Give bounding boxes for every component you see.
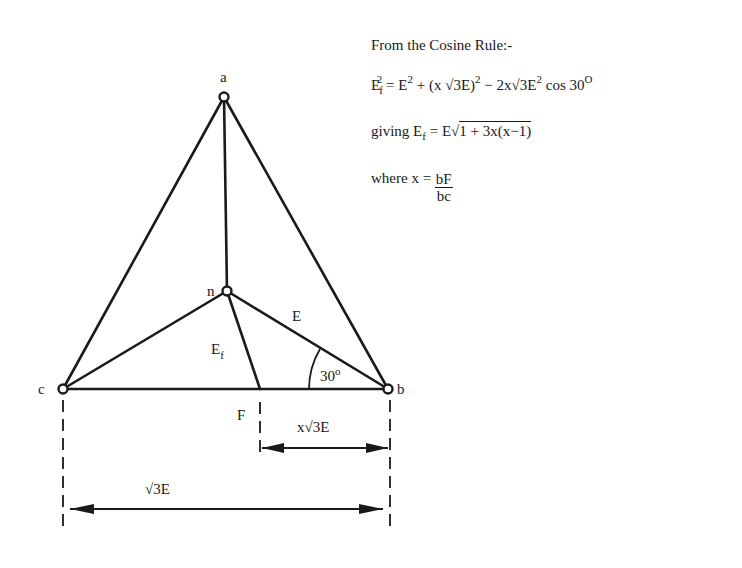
dimension-short xyxy=(262,443,388,453)
label-angle: 30o xyxy=(320,365,341,384)
label-n: n xyxy=(207,283,215,299)
node-n xyxy=(223,287,232,296)
label-dim-short: x√3E xyxy=(297,419,329,435)
angle-arc xyxy=(309,349,320,389)
edge-a-n xyxy=(224,97,227,291)
edge-n-F xyxy=(227,291,260,389)
arrowhead-right-icon xyxy=(359,504,383,514)
label-c: c xyxy=(38,381,45,397)
node-a xyxy=(220,93,229,102)
arrowhead-right-icon xyxy=(366,443,388,453)
arrowhead-left-icon xyxy=(262,443,284,453)
equation-x-definition: where x = bF bc xyxy=(371,164,453,196)
equation-result: giving Ef = E√1 + 3x(x−1) xyxy=(371,124,531,139)
label-a: a xyxy=(220,69,227,85)
label-E: E xyxy=(292,308,301,324)
edge-n-b xyxy=(227,291,388,389)
edge-a-b xyxy=(224,97,388,389)
edge-n-c xyxy=(63,291,227,389)
notes-heading: From the Cosine Rule:- xyxy=(371,38,512,53)
label-dim-long: √3E xyxy=(145,481,170,497)
equation-cosine-rule: Ef2 = E2 + (x √3E)2 − 2x√3E2 cos 30O xyxy=(371,78,592,93)
edge-a-c xyxy=(63,97,224,389)
arrowhead-left-icon xyxy=(70,504,94,514)
fraction-bF-over-bc: bF bc xyxy=(435,172,453,204)
node-b xyxy=(384,385,393,394)
node-c xyxy=(59,385,68,394)
dimension-long xyxy=(70,504,383,514)
label-b: b xyxy=(397,381,405,397)
label-Ef: Ef xyxy=(211,341,224,361)
label-F: F xyxy=(237,407,245,423)
